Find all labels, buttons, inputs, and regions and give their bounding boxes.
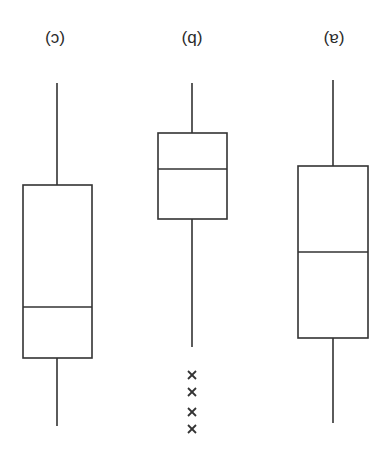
boxplot-canvas	[0, 0, 387, 456]
box-b	[158, 133, 227, 219]
box-c	[23, 185, 92, 358]
boxplot-figure: (c) (b) (a)	[0, 0, 387, 456]
